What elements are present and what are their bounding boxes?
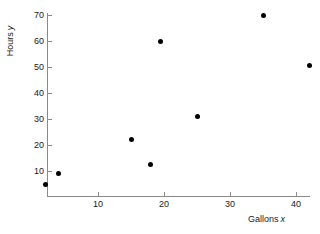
x-axis-title-text: Gallons: [248, 214, 279, 224]
x-tick-label: 10: [93, 199, 103, 209]
data-point: [148, 162, 153, 167]
data-point: [307, 63, 312, 68]
y-tick-mark: [48, 93, 52, 94]
y-tick-label: 70: [24, 10, 44, 20]
x-tick-label: 30: [225, 199, 235, 209]
y-tick-label: 40: [24, 88, 44, 98]
y-tick-mark: [48, 67, 52, 68]
scatter-plot-figure: 10203040 10203040506070 Gallonsx Hoursy: [0, 0, 320, 234]
data-point: [129, 137, 134, 142]
y-tick-label: 60: [24, 36, 44, 46]
x-axis-title: Gallonsx: [248, 214, 285, 224]
x-tick-label: 40: [291, 199, 301, 209]
y-tick-label: 10: [24, 166, 44, 176]
y-tick-mark: [48, 119, 52, 120]
y-tick-label: 50: [24, 62, 44, 72]
y-axis-title-text: Hours: [5, 32, 15, 56]
x-tick-mark: [230, 192, 231, 196]
x-tick-label: 20: [159, 199, 169, 209]
y-axis-variable: y: [5, 26, 15, 33]
data-point: [158, 39, 163, 44]
x-axis-variable: x: [279, 214, 286, 224]
x-tick-mark: [164, 192, 165, 196]
y-tick-mark: [48, 15, 52, 16]
data-point: [195, 114, 200, 119]
y-tick-mark: [48, 41, 52, 42]
data-point: [261, 13, 266, 18]
data-point: [56, 171, 61, 176]
data-point: [43, 182, 48, 187]
y-tick-mark: [48, 145, 52, 146]
y-axis-title: Hoursy: [5, 15, 15, 67]
x-tick-mark: [296, 192, 297, 196]
x-tick-mark: [98, 192, 99, 196]
y-tick-label: 20: [24, 140, 44, 150]
x-axis-line: [47, 196, 310, 197]
y-tick-label: 30: [24, 114, 44, 124]
y-tick-mark: [48, 171, 52, 172]
